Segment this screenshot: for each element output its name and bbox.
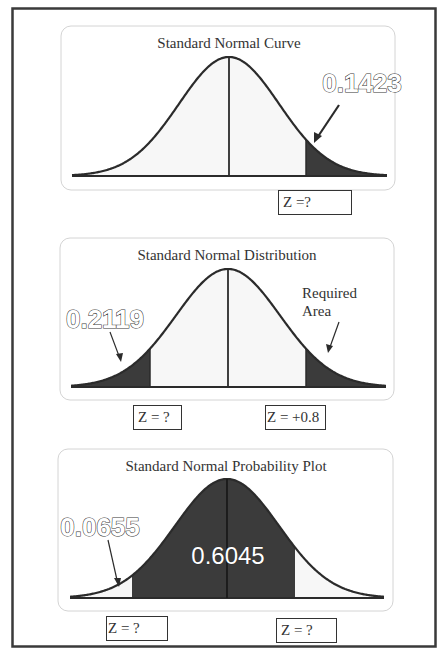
area-label-0-2119: 0.2119 [66,304,144,334]
annotation-required: Required [302,285,357,301]
panel-standard-normal-probability-plot: Standard Normal Probability Plot 0.0655 … [58,449,393,611]
area-label-0-1423: 0.1423 [322,68,402,98]
z-value-box: Z =? [278,190,352,215]
z-value-box-left: Z = ? [133,405,182,430]
annotation-area: Area [302,303,331,319]
z-value-box-left: Z = ? [106,616,168,641]
area-label-0-0655: 0.0655 [60,512,140,542]
panel-1-title: Standard Normal Curve [157,35,301,51]
z-value-box-right: Z = +0.8 [265,405,326,430]
panel-standard-normal-curve: Standard Normal Curve 0.1423 [61,26,402,190]
z-value-box-right: Z = ? [276,618,337,643]
diagram-canvas: Standard Normal Curve 0.1423 Standard No… [0,0,441,655]
panel-standard-normal-distribution: Standard Normal Distribution 0.2119 Requ… [60,238,394,400]
area-label-0-6045: 0.6045 [191,542,264,569]
panel-3-title: Standard Normal Probability Plot [125,458,327,474]
panel-2-title: Standard Normal Distribution [137,247,317,263]
